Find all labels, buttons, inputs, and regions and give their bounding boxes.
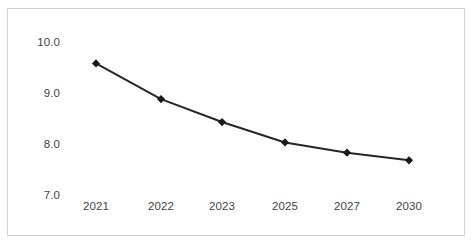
x-axis-tick-label: 2021 <box>68 200 124 212</box>
x-axis-tick-label: 2025 <box>257 200 313 212</box>
x-axis-tick-label: 2027 <box>319 200 375 212</box>
x-axis-tick-label: 2030 <box>381 200 437 212</box>
y-axis-tick-label: 8.0 <box>20 138 60 150</box>
y-axis-tick-label: 9.0 <box>20 87 60 99</box>
y-axis-tick-label: 7.0 <box>20 189 60 201</box>
x-axis-tick-label: 2023 <box>194 200 250 212</box>
chart-container: 10.0 9.0 8.0 7.0 2021 2022 2023 2025 202… <box>0 0 473 244</box>
y-axis-tick-label: 10.0 <box>20 36 60 48</box>
x-axis-tick-label: 2022 <box>133 200 189 212</box>
